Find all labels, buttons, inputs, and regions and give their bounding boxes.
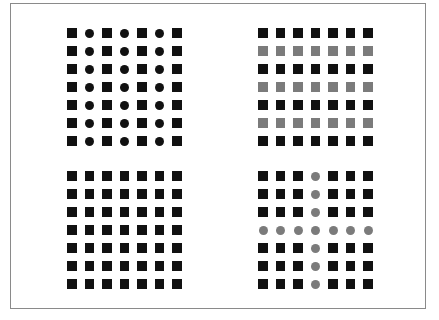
- square-black-icon: [102, 64, 112, 74]
- square-black-icon: [67, 189, 77, 199]
- grid-cell: [346, 279, 356, 289]
- square-black-icon: [67, 207, 77, 217]
- square-black-icon: [328, 136, 338, 146]
- grid-cell: [172, 171, 182, 181]
- grid-cell: [102, 279, 112, 289]
- square-black-icon: [102, 118, 112, 128]
- square-gray-icon: [328, 46, 338, 56]
- square-black-icon: [137, 279, 147, 289]
- grid-cell: [346, 261, 356, 271]
- grid-cell: [137, 82, 147, 92]
- grid-cell: [120, 189, 130, 199]
- grid-cell: [328, 82, 338, 92]
- square-black-icon: [258, 171, 268, 181]
- square-black-icon: [276, 171, 286, 181]
- grid-cell: [363, 207, 373, 217]
- grid-cell: [293, 207, 303, 217]
- grid-cell: [258, 171, 268, 181]
- grid-cell: [120, 243, 130, 253]
- grid-cell: [311, 171, 321, 181]
- grid-cell: [85, 261, 95, 271]
- grid-cell: [172, 28, 182, 38]
- square-black-icon: [363, 207, 373, 217]
- square-black-icon: [67, 100, 77, 110]
- square-black-icon: [276, 279, 286, 289]
- circle-gray-icon: [311, 172, 320, 181]
- grid-cell: [85, 225, 95, 235]
- square-black-icon: [67, 171, 77, 181]
- square-black-icon: [102, 171, 112, 181]
- square-black-icon: [258, 100, 268, 110]
- grid-cell: [258, 28, 268, 38]
- grid-cell: [328, 64, 338, 74]
- grid-cell: [155, 225, 165, 235]
- circle-gray-icon: [311, 190, 320, 199]
- grid-cell: [346, 189, 356, 199]
- grid-cell: [293, 82, 303, 92]
- square-black-icon: [85, 207, 95, 217]
- square-black-icon: [155, 243, 165, 253]
- grid-cell: [328, 189, 338, 199]
- grid-cell: [346, 46, 356, 56]
- grid-cell: [363, 189, 373, 199]
- grid-cell: [293, 100, 303, 110]
- square-black-icon: [137, 118, 147, 128]
- grid-cell: [363, 225, 373, 235]
- grid-cell: [137, 46, 147, 56]
- square-gray-icon: [328, 118, 338, 128]
- grid-cell: [276, 225, 286, 235]
- grid-cell: [137, 279, 147, 289]
- circle-gray-icon: [311, 226, 320, 235]
- square-gray-icon: [346, 118, 356, 128]
- grid-cell: [120, 207, 130, 217]
- grid-cell: [102, 82, 112, 92]
- grid-cell: [102, 100, 112, 110]
- square-black-icon: [67, 261, 77, 271]
- grid-cell: [120, 118, 130, 128]
- grid-cell: [293, 261, 303, 271]
- grid-cell: [67, 225, 77, 235]
- grid-cell: [155, 28, 165, 38]
- grid-cell: [172, 261, 182, 271]
- square-black-icon: [311, 136, 321, 146]
- circle-black-icon: [120, 29, 129, 38]
- square-black-icon: [258, 207, 268, 217]
- grid-cell: [363, 136, 373, 146]
- grid-cell: [67, 261, 77, 271]
- grid-cell: [363, 243, 373, 253]
- grid-cell: [363, 28, 373, 38]
- circle-gray-icon: [329, 226, 338, 235]
- square-gray-icon: [276, 46, 286, 56]
- circle-black-icon: [85, 137, 94, 146]
- square-black-icon: [363, 100, 373, 110]
- grid-cell: [276, 171, 286, 181]
- grid-cell: [67, 82, 77, 92]
- square-black-icon: [328, 171, 338, 181]
- square-black-icon: [346, 28, 356, 38]
- grid-cell: [311, 82, 321, 92]
- grid-cell: [85, 171, 95, 181]
- square-black-icon: [155, 207, 165, 217]
- circle-black-icon: [85, 65, 94, 74]
- grid-cell: [102, 189, 112, 199]
- grid-cell: [276, 100, 286, 110]
- grid-cell: [346, 28, 356, 38]
- square-gray-icon: [258, 46, 268, 56]
- circle-black-icon: [155, 101, 164, 110]
- grid-cell: [328, 225, 338, 235]
- grid-cell: [276, 46, 286, 56]
- grid-cell: [67, 279, 77, 289]
- grid-cell: [311, 207, 321, 217]
- square-black-icon: [120, 279, 130, 289]
- grid-cell: [155, 118, 165, 128]
- grid-cell: [155, 100, 165, 110]
- grid-cell: [85, 279, 95, 289]
- grid-cell: [276, 243, 286, 253]
- grid-cell: [102, 261, 112, 271]
- grid-cell: [328, 279, 338, 289]
- square-black-icon: [293, 243, 303, 253]
- square-black-icon: [276, 243, 286, 253]
- grid-cell: [155, 171, 165, 181]
- square-black-icon: [67, 279, 77, 289]
- grid-cell: [311, 243, 321, 253]
